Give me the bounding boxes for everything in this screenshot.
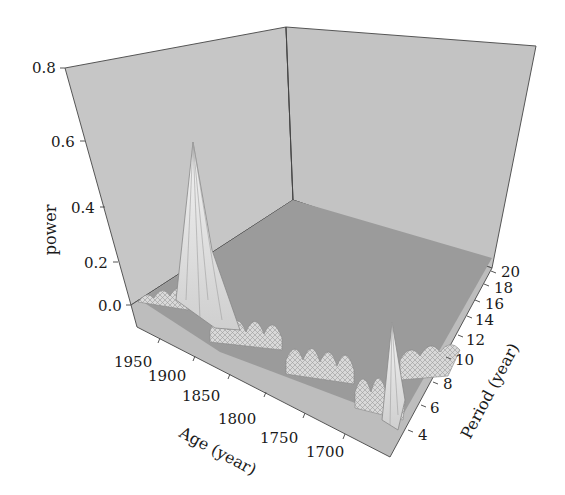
z-tick-0.4: 0.4 [71,199,95,217]
y-tick-14: 14 [475,311,494,329]
y-tick-6: 6 [430,399,440,417]
z-axis-title: power [41,204,60,255]
y-tick-10: 10 [455,351,474,369]
z-tick-0.0: 0.0 [98,297,122,315]
z-tick-0.6: 0.6 [51,133,75,151]
x-tick-1950: 1950 [114,353,152,371]
z-tick-0.8: 0.8 [32,59,56,77]
surface-chart: 0.8 0.6 0.4 0.2 0.0 power 1950 1900 1850… [0,0,565,495]
y-tick-12: 12 [466,331,485,349]
x-tick-1900: 1900 [148,367,186,385]
x-tick-1800: 1800 [218,410,256,428]
x-tick-1700: 1700 [306,443,344,461]
x-tick-1850: 1850 [182,387,220,405]
x-axis-title: Age (year) [175,422,259,479]
y-tick-18: 18 [494,279,513,297]
y-tick-8: 8 [443,375,453,393]
y-tick-16: 16 [485,295,504,313]
z-tick-0.2: 0.2 [84,254,108,272]
x-tick-1750: 1750 [260,429,298,447]
y-tick-4: 4 [418,426,428,444]
y-tick-20: 20 [501,263,520,281]
